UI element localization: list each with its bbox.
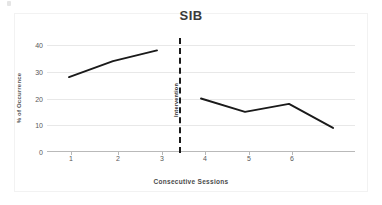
x-tick-label-5: 5 bbox=[247, 155, 251, 162]
gridline-20 bbox=[47, 99, 355, 100]
chart-page: SIB 40 30 20 10 0 1 2 3 4 5 6 Interventi… bbox=[0, 0, 382, 205]
plot-area bbox=[47, 45, 355, 152]
x-tick-label-4: 4 bbox=[203, 155, 207, 162]
x-tick-label-2: 2 bbox=[116, 155, 120, 162]
x-axis-baseline bbox=[47, 151, 355, 152]
gridline-10 bbox=[47, 125, 355, 126]
intervention-label: Intervention bbox=[173, 82, 179, 118]
y-tick-0: 0 bbox=[17, 149, 43, 156]
x-axis-title: Consecutive Sessions bbox=[0, 178, 382, 185]
x-tick-label-3: 3 bbox=[160, 155, 164, 162]
gridline-30 bbox=[47, 72, 355, 73]
y-axis-title: % of Occurrence bbox=[16, 73, 22, 124]
gridline-40 bbox=[47, 45, 355, 46]
y-tick-40: 40 bbox=[17, 42, 43, 49]
x-tick-label-1: 1 bbox=[69, 155, 73, 162]
phase-change-dashed-line bbox=[179, 38, 181, 153]
chart-title: SIB bbox=[0, 8, 382, 23]
scan-artifact-mark bbox=[7, 1, 11, 6]
x-tick-label-6: 6 bbox=[290, 155, 294, 162]
